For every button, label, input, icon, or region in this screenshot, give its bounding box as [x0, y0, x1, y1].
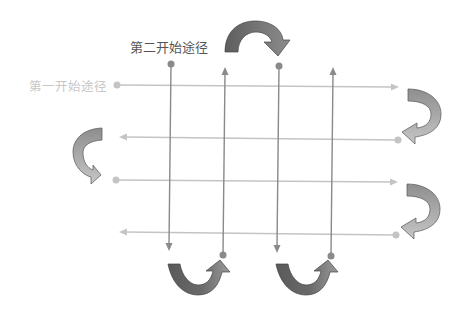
path-grid-diagram: 第二开始途径 第一开始途径	[0, 0, 463, 314]
vertical-path-2	[220, 67, 229, 259]
horizontal-path-3	[113, 177, 399, 186]
first-start-path-label: 第一开始途径	[29, 76, 107, 95]
horizontal-path-4	[119, 229, 400, 239]
left-turn-arrow-icon	[73, 128, 102, 184]
vertical-path-3	[274, 63, 283, 254]
vertical-path-1	[166, 61, 175, 252]
vertical-path-4	[328, 67, 337, 260]
bottom-turn-arrow-1-icon	[168, 260, 230, 295]
diagram-canvas	[0, 0, 463, 314]
right-turn-arrow-2-icon	[401, 184, 440, 239]
top-turn-arrow-icon	[225, 21, 290, 56]
bottom-turn-arrow-2-icon	[276, 260, 338, 295]
second-start-path-label: 第二开始途径	[130, 37, 208, 56]
horizontal-path-2	[119, 134, 402, 144]
horizontal-path-1	[114, 82, 400, 91]
right-turn-arrow-1-icon	[402, 89, 441, 144]
